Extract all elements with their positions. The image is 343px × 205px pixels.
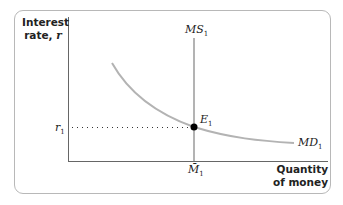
x-axis-label: Quantity of money (270, 163, 328, 189)
y-label-text: rate, (24, 29, 56, 41)
m-sub: 1 (199, 170, 203, 178)
md-label: MD1 (298, 136, 323, 154)
equilibrium-point (191, 124, 198, 131)
md-text: MD (298, 136, 318, 149)
y-label-line1: Interest (22, 16, 64, 29)
e-sub: 1 (208, 120, 212, 128)
x-label-line1: Quantity (270, 163, 328, 176)
md-sub: 1 (318, 143, 322, 151)
y-label-var: r (56, 29, 62, 41)
ms-text: MS (185, 23, 204, 36)
x-label-line2: of money (270, 176, 328, 189)
r-sub: 1 (60, 128, 64, 136)
r1-tick-label: r1 (55, 121, 65, 139)
ms-label: MS1 (185, 23, 208, 41)
e-label: E1 (200, 113, 213, 131)
ms-sub: 1 (204, 30, 208, 38)
e-text: E (200, 113, 208, 126)
y-label-line2: rate, r (22, 29, 64, 42)
m-text: M̄ (188, 163, 199, 176)
m1-tick-label: M̄1 (188, 163, 204, 181)
y-axis-label: Interest rate, r (22, 16, 64, 42)
